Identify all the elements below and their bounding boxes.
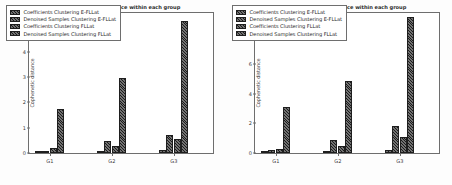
legend-right: Coefficients Clustering E-FLLat Denoised…: [232, 5, 347, 41]
y-axis-tick-mark: [27, 51, 30, 52]
legend-item-label: Denoised Samples Clustering E-FLLat: [24, 16, 116, 22]
legend-swatch-icon: [10, 31, 20, 36]
y-axis-tick-mark: [253, 64, 256, 65]
y-axis-tick-label: 1: [16, 125, 26, 131]
x-axis-tick-label: G1: [46, 158, 53, 164]
legend-item-label: Denoised Samples Clustering E-FLLat: [250, 16, 342, 22]
bar: [268, 150, 275, 153]
figure-row: Average cophenetic distance within each …: [0, 0, 452, 185]
x-axis-tick-mark: [112, 153, 113, 156]
legend-item[interactable]: Coefficients Clustering E-FLLat: [236, 9, 342, 16]
bar: [181, 21, 188, 153]
legend-swatch-icon: [10, 10, 20, 15]
x-axis-tick-label: G3: [170, 158, 177, 164]
bar: [159, 150, 166, 153]
y-axis-tick-label: 3: [16, 74, 26, 80]
legend-item[interactable]: Coefficients Clustering E-FLLat: [10, 9, 116, 16]
x-axis-tick-label: G1: [272, 158, 279, 164]
legend-swatch-icon: [10, 24, 20, 29]
y-axis-tick-mark: [253, 123, 256, 124]
bar: [57, 109, 64, 153]
legend-left: Coefficients Clustering E-FLLat Denoised…: [6, 5, 121, 41]
bar: [50, 148, 57, 153]
y-axis-tick-mark: [253, 153, 256, 154]
legend-item-label: Coefficients Clustering FLLat: [24, 23, 95, 29]
bar: [283, 107, 290, 153]
bar: [392, 126, 399, 153]
bar: [276, 149, 283, 153]
legend-swatch-icon: [10, 17, 20, 22]
x-axis-tick-mark: [400, 153, 401, 156]
chart-panel-right: Average cophenetic distance within each …: [226, 0, 452, 185]
legend-swatch-icon: [236, 10, 246, 15]
bar: [338, 146, 345, 153]
x-axis-tick-mark: [338, 153, 339, 156]
x-axis-tick-mark: [174, 153, 175, 156]
y-axis-tick-label: 4: [242, 91, 252, 97]
bar: [261, 151, 268, 153]
legend-item[interactable]: Coefficients Clustering FLLat: [236, 23, 342, 30]
bar: [407, 17, 414, 153]
y-axis-tick-label: 2: [16, 99, 26, 105]
y-axis-tick-mark: [253, 93, 256, 94]
bar: [330, 140, 337, 153]
legend-item-label: Coefficients Clustering E-FLLat: [24, 9, 100, 15]
bar: [345, 81, 352, 153]
chart-panel-left: Average cophenetic distance within each …: [0, 0, 226, 185]
bar: [400, 137, 407, 153]
bar: [42, 151, 49, 153]
bar: [112, 146, 119, 153]
legend-item[interactable]: Coefficients Clustering FLLat: [10, 23, 116, 30]
legend-item[interactable]: Denoised Samples Clustering E-FLLat: [236, 16, 342, 23]
x-axis-tick-label: G2: [108, 158, 115, 164]
y-axis-tick-label: 0: [16, 150, 26, 156]
legend-swatch-icon: [236, 24, 246, 29]
y-axis-tick-label: 4: [16, 49, 26, 55]
legend-item[interactable]: Denoised Samples Clustering E-FLLat: [10, 16, 116, 23]
x-axis-tick-label: G2: [334, 158, 341, 164]
legend-item-label: Coefficients Clustering FLLat: [250, 23, 321, 29]
legend-item-label: Denoised Samples Clustering FLLat: [250, 31, 338, 37]
bar: [97, 151, 104, 153]
bar: [385, 150, 392, 153]
bar: [104, 141, 111, 153]
bar: [323, 151, 330, 153]
bar: [174, 139, 181, 153]
y-axis-tick-mark: [27, 153, 30, 154]
y-axis-tick-mark: [27, 127, 30, 128]
legend-swatch-icon: [236, 31, 246, 36]
legend-item[interactable]: Denoised Samples Clustering FLLat: [10, 30, 116, 37]
legend-item-label: Denoised Samples Clustering FLLat: [24, 31, 112, 37]
y-axis-tick-label: 0: [242, 150, 252, 156]
bar: [166, 135, 173, 153]
bar: [35, 151, 42, 153]
y-axis-tick-mark: [27, 76, 30, 77]
x-axis-tick-label: G3: [396, 158, 403, 164]
legend-item[interactable]: Denoised Samples Clustering FLLat: [236, 30, 342, 37]
x-axis-tick-mark: [276, 153, 277, 156]
legend-item-label: Coefficients Clustering E-FLLat: [250, 9, 326, 15]
y-axis-tick-mark: [27, 102, 30, 103]
legend-swatch-icon: [236, 17, 246, 22]
x-axis-tick-mark: [50, 153, 51, 156]
y-axis-tick-label: 6: [242, 61, 252, 67]
y-axis-tick-label: 2: [242, 120, 252, 126]
bar: [119, 78, 126, 153]
